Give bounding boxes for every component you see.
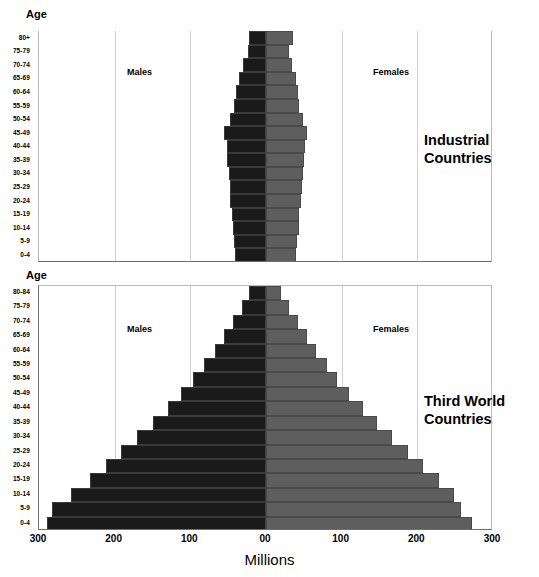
age-tick-label: 65-69 [13,332,30,339]
age-tick-label: 60-64 [13,89,30,96]
bar-female [266,387,349,401]
series-label-females-top: Females [373,67,409,77]
bar-male [230,194,266,208]
bar-male [234,99,266,113]
bar-female [266,329,307,343]
x-axis-tick-label: 100 [332,533,349,544]
bar-male [193,372,266,386]
bar-male [239,72,266,86]
bar-male [71,488,266,502]
bar-row [39,99,491,113]
age-tick-label: 70-74 [13,318,30,325]
age-tick-label: 5-9 [20,505,30,512]
age-tick-label: 40-44 [13,404,30,411]
bar-female [266,286,281,300]
bar-row [39,248,491,261]
bar-row [39,113,491,127]
bar-male [227,153,266,167]
age-tick-label: 80+ [19,35,30,42]
age-tick-label: 60-64 [13,347,30,354]
bar-female [266,208,299,222]
bar-male [204,358,266,372]
bar-female [266,416,377,430]
age-tick-label: 15-19 [13,211,30,218]
bar-row [39,445,491,459]
bar-row [39,31,491,45]
age-tick-label: 75-79 [13,48,30,55]
bar-male [249,286,266,300]
age-tick-label: 55-59 [13,103,30,110]
bar-row [39,194,491,208]
bar-female [266,401,363,415]
bar-female [266,502,461,516]
age-tick-label: 35-39 [13,419,30,426]
bar-female [266,194,301,208]
bar-row [39,208,491,222]
x-axis-title: Millions [0,551,539,568]
bar-female [266,58,292,72]
bar-row [39,372,491,386]
bar-male [230,180,266,194]
bar-male [233,315,266,329]
x-axis-tick-label: 200 [408,533,425,544]
bar-female [266,85,298,99]
bar-male [224,126,266,140]
bar-female [266,445,408,459]
age-tick-label: 55-59 [13,361,30,368]
age-tick-label: 30-34 [13,433,30,440]
x-axis-tick-label: 300 [30,533,47,544]
x-axis-tick-label: 100 [181,533,198,544]
bar-row [39,517,491,529]
age-axis-header-bottom: Age [26,269,47,281]
series-label-males-bottom: Males [127,324,152,334]
bar-row [39,358,491,372]
series-label-males-top: Males [127,67,152,77]
x-axis-tick-label: 200 [105,533,122,544]
bar-female [266,153,304,167]
bar-row [39,329,491,343]
bar-male [137,430,266,444]
bar-male [236,85,266,99]
panel-title-industrial-line1: Industrial [424,131,492,149]
bar-row [39,473,491,487]
bar-female [266,126,307,140]
bar-male [90,473,266,487]
bar-female [266,344,316,358]
bar-male [233,221,266,235]
bar-row [39,221,491,235]
bar-row [39,235,491,249]
bar-male [230,113,266,127]
bar-female [266,180,302,194]
age-tick-label: 50-54 [13,375,30,382]
bar-female [266,31,293,45]
bar-female [266,315,298,329]
x-axis-ticks: 30020010000100200300 [38,533,492,549]
bar-row [39,488,491,502]
bar-row [39,315,491,329]
bar-row [39,300,491,314]
bar-female [266,235,297,249]
bar-female [266,248,296,261]
x-axis-tick-label: 00 [259,533,270,544]
bar-row [39,180,491,194]
bar-female [266,113,303,127]
age-tick-label: 5-9 [20,238,30,245]
bar-female [266,488,454,502]
bar-male [153,416,267,430]
bar-male [229,167,266,181]
bar-female [266,221,299,235]
age-tick-label: 70-74 [13,62,30,69]
bar-row [39,58,491,72]
bar-row [39,85,491,99]
age-tick-label: 10-14 [13,491,30,498]
bar-female [266,358,327,372]
age-tick-label: 10-14 [13,225,30,232]
bar-row [39,167,491,181]
bar-male [249,31,266,45]
age-tick-label: 25-29 [13,448,30,455]
age-tick-label: 75-79 [13,303,30,310]
bar-male [121,445,266,459]
bar-row [39,286,491,300]
age-tick-label: 80-84 [13,289,30,296]
bar-male [248,45,266,59]
